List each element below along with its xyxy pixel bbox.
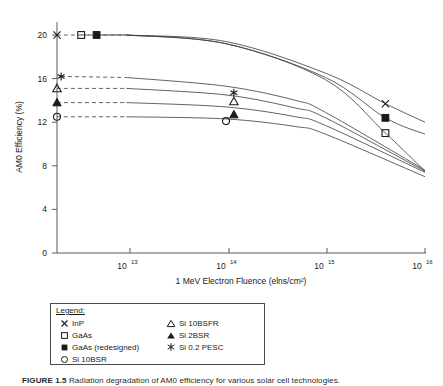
y-tick-label: 0 (42, 248, 47, 258)
x-tick-exponent: 16 (426, 259, 433, 265)
filled-square-marker-icon (56, 343, 72, 352)
legend-right-column: Si 10BSFR Si 2BSR Si 0.2 PESC (163, 317, 223, 353)
series-line-dashed (61, 76, 126, 77)
x-marker-icon (56, 319, 72, 328)
x-tick-exponent: 14 (230, 259, 237, 265)
y-tick-label: 12 (38, 117, 48, 127)
x-marker (382, 100, 389, 107)
x-tick-mantissa: 10 (117, 261, 127, 271)
data-markers (53, 31, 389, 136)
series-line (127, 35, 425, 134)
open-triangle-marker-icon (163, 319, 179, 328)
asterisk-marker-icon (163, 342, 179, 352)
x-tick-exponent: 15 (328, 259, 335, 265)
legend-title: Legend: (56, 306, 85, 315)
y-tick-label: 4 (42, 204, 47, 214)
open-circle-marker-icon (56, 355, 72, 364)
y-tick-label: 16 (38, 74, 48, 84)
legend-item: Si 2BSR (163, 329, 223, 341)
filled-square-marker (93, 32, 100, 39)
legend-label: GaAs (72, 331, 92, 340)
legend-box: Legend: InP GaAs GaAs (redesigned) (50, 303, 265, 365)
legend-label: Si 10BSR (72, 355, 107, 364)
x-axis-tick-labels: 10 13 10 14 10 15 10 16 (117, 259, 433, 271)
y-axis-tick-labels: 20 16 12 8 4 0 (38, 30, 48, 258)
legend-item: Si 10BSFR (163, 317, 223, 329)
figure-container: 20 16 12 8 4 0 AM0 Efficiency (%) 10 13 … (0, 0, 443, 386)
legend-label: Si 2BSR (179, 331, 209, 340)
x-tick-mantissa: 10 (412, 261, 422, 271)
x-axis-ticks (130, 248, 425, 253)
x-tick-exponent: 13 (131, 259, 138, 265)
legend-item: Si 0.2 PESC (163, 341, 223, 353)
filled-triangle-marker-icon (163, 331, 179, 340)
y-tick-label: 8 (42, 161, 47, 171)
y-axis-ticks (52, 35, 57, 253)
data-curves (57, 35, 425, 177)
figure-caption-text: Radiation degradation of AM0 efficiency … (69, 376, 340, 385)
legend-item: GaAs (redesigned) (56, 341, 139, 353)
legend-item: Si 10BSR (56, 353, 139, 365)
legend-label: InP (72, 319, 84, 328)
legend-label: GaAs (redesigned) (72, 343, 139, 352)
x-axis-title: 1 MeV Electron Fluence (elns/cm²) (176, 276, 307, 286)
legend-label: Si 0.2 PESC (179, 343, 223, 352)
filled-triangle-marker (53, 98, 61, 105)
legend-label: Si 10BSFR (179, 319, 219, 328)
figure-caption-label: FIGURE 1.5 (22, 376, 67, 385)
x-tick-mantissa: 10 (314, 261, 324, 271)
legend-item: GaAs (56, 329, 139, 341)
legend-left-column: InP GaAs GaAs (redesigned) Si 10BSR (56, 317, 139, 365)
series-line (127, 35, 425, 122)
open-triangle-marker (230, 97, 238, 104)
legend-item: InP (56, 317, 139, 329)
y-axis-title: AM0 Efficiency (%) (14, 101, 24, 173)
filled-square-marker (382, 114, 389, 121)
x-tick-mantissa: 10 (216, 261, 226, 271)
figure-caption: FIGURE 1.5 Radiation degradation of AM0 … (22, 376, 340, 385)
open-square-marker-icon (56, 331, 72, 340)
filled-triangle-marker (230, 110, 238, 117)
series-line (127, 103, 425, 173)
y-tick-label: 20 (38, 30, 48, 40)
